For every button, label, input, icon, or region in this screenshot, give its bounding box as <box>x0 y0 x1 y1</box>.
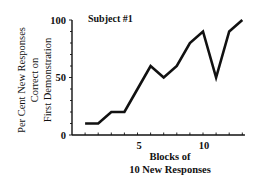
tick-labels: 100 50 0 5 10 <box>50 15 209 151</box>
axes <box>72 20 245 135</box>
ytick-label-100: 100 <box>50 15 66 26</box>
x-axis-label: Blocks of 10 New Responses <box>110 150 230 176</box>
x-axis-label-line-2: 10 New Responses <box>110 163 230 176</box>
x-axis-label-line-1: Blocks of <box>110 150 230 163</box>
ytick-label-50: 50 <box>56 72 67 83</box>
ytick-label-0: 0 <box>61 130 66 141</box>
data-line-subject-1 <box>85 20 242 124</box>
